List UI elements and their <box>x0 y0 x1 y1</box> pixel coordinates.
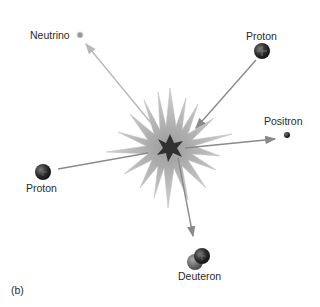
label-neutrino: Neutrino <box>30 30 70 41</box>
label-deuteron: Deuteron <box>178 271 221 282</box>
proton-left-particle <box>35 164 51 180</box>
label-proton-left: Proton <box>26 183 57 194</box>
deuteron-particle <box>187 248 210 270</box>
label-proton-top: Proton <box>246 31 277 42</box>
positron-particle <box>284 132 290 138</box>
label-positron: Positron <box>264 116 303 127</box>
proton-top-particle <box>254 43 270 59</box>
proton-top-arrow <box>196 60 256 128</box>
neutrino-particle <box>77 32 83 38</box>
panel-label: (b) <box>11 285 24 296</box>
fusion-diagram <box>0 0 320 307</box>
fusion-burst <box>106 88 232 208</box>
